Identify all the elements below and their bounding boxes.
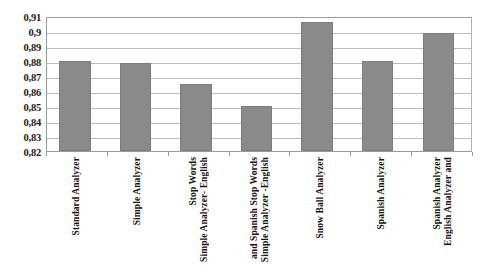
x-tick	[411, 152, 412, 156]
bar[interactable]	[241, 106, 272, 151]
x-axis-category-label-inner: Standard Analyzer	[71, 157, 82, 278]
x-axis-category-label-line: Snow Ball Analyzer	[314, 157, 325, 239]
x-tick	[46, 152, 47, 156]
x-tick	[107, 152, 108, 156]
y-tick-label: 0,82	[23, 147, 41, 158]
x-axis-category-label-line: Simple Analyzer	[132, 157, 143, 225]
x-axis-category-label: Simple Analyzer	[107, 157, 168, 278]
y-tick-label: 0,88	[23, 57, 41, 68]
x-axis-category-label-line: English Analyzer and	[442, 157, 453, 246]
plot-area	[46, 17, 472, 152]
bar[interactable]	[59, 61, 90, 151]
bar-slot	[108, 18, 169, 151]
x-axis-category-label: Simple Analyzer- EnglishStop Words	[168, 157, 229, 278]
bars-layer	[47, 18, 471, 151]
bar[interactable]	[120, 63, 151, 152]
bar[interactable]	[301, 22, 332, 151]
y-tick-label: 0,84	[23, 117, 41, 128]
y-tick-label: 0,85	[23, 102, 41, 113]
x-axis-category-label: English Analyzer andSpanish Analyzer	[411, 157, 472, 278]
x-axis-category-label: Spanish Analyzer	[350, 157, 411, 278]
x-axis-category-label: Standard Analyzer	[46, 157, 107, 278]
x-axis-category-label-inner: Simple Analyzer- EnglishStop Words	[187, 157, 209, 278]
bar-slot	[168, 18, 229, 151]
x-axis-category-label: Simple Analyzer -Englishand Spanish Stop…	[229, 157, 290, 278]
x-axis-category-label-line: Spanish Analyzer	[431, 157, 442, 230]
bar[interactable]	[180, 84, 211, 152]
x-axis: Standard AnalyzerSimple AnalyzerSimple A…	[46, 157, 472, 278]
bar-chart: 0,910,90,890,880,870,860,850,840,830,82 …	[0, 0, 486, 278]
bar-slot	[47, 18, 108, 151]
bar[interactable]	[362, 61, 393, 151]
x-tick	[229, 152, 230, 156]
x-axis-category-label-inner: English Analyzer andSpanish Analyzer	[431, 157, 453, 278]
bar[interactable]	[423, 33, 454, 152]
y-tick-label: 0,86	[23, 87, 41, 98]
x-tick	[168, 152, 169, 156]
y-tick-label: 0,89	[23, 42, 41, 53]
bar-slot	[410, 18, 471, 151]
y-tick-label: 0,91	[23, 12, 41, 23]
x-axis-category-label-line: Simple Analyzer -English	[259, 157, 270, 262]
x-tick	[472, 152, 473, 156]
x-axis-category-label-inner: Snow Ball Analyzer	[314, 157, 325, 278]
x-axis-category-label-inner: Simple Analyzer	[132, 157, 143, 278]
x-axis-category-label-inner: Simple Analyzer -Englishand Spanish Stop…	[248, 157, 270, 278]
x-tick	[350, 152, 351, 156]
x-axis-category-label-line: Spanish Analyzer	[375, 157, 386, 230]
bar-slot	[289, 18, 350, 151]
y-tick-label: 0,87	[23, 72, 41, 83]
bar-slot	[350, 18, 411, 151]
x-axis-category-label-line: and Spanish Stop Words	[248, 157, 259, 259]
x-axis-category-label-inner: Spanish Analyzer	[375, 157, 386, 278]
y-tick-label: 0,83	[23, 132, 41, 143]
x-tick	[289, 152, 290, 156]
x-axis-category-label-line: Standard Analyzer	[71, 157, 82, 236]
x-axis-category-label-line: Simple Analyzer- English	[198, 157, 209, 262]
x-axis-category-label-line: Stop Words	[187, 157, 198, 206]
y-axis: 0,910,90,890,880,870,860,850,840,830,82	[0, 11, 44, 153]
y-tick-label: 0,9	[28, 27, 41, 38]
x-axis-category-label: Snow Ball Analyzer	[289, 157, 350, 278]
bar-slot	[229, 18, 290, 151]
